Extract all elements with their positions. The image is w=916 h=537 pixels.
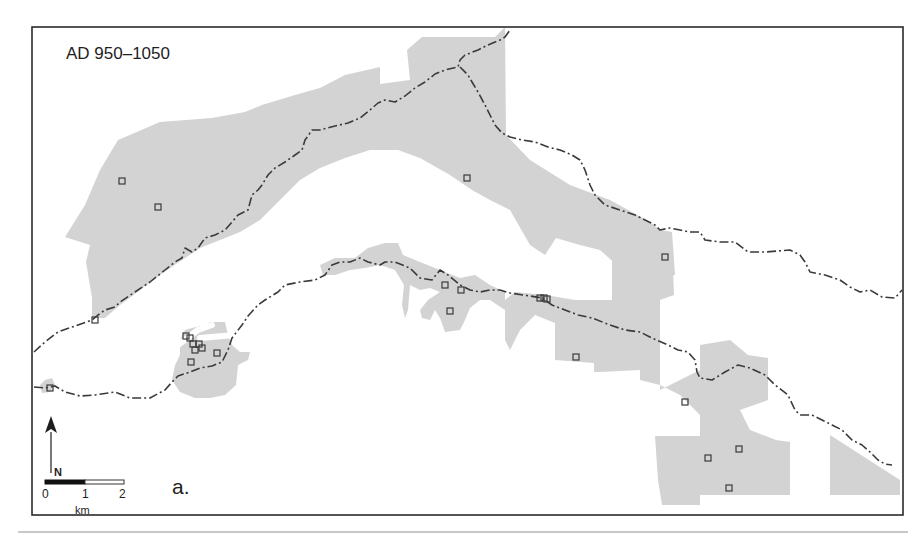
north-label: N — [54, 466, 62, 478]
scale-tick-0: 0 — [42, 487, 49, 501]
map-title: AD 950–1050 — [66, 44, 170, 64]
panel-label: a. — [172, 475, 190, 499]
figure-divider — [18, 531, 908, 533]
scale-unit: km — [75, 504, 90, 516]
scale-tick-1: 1 — [82, 487, 89, 501]
scale-bar — [45, 480, 124, 484]
scale-tick-2: 2 — [119, 487, 126, 501]
land-area — [505, 245, 790, 505]
map-canvas — [0, 0, 916, 537]
north-arrow-icon — [45, 416, 57, 473]
land-area — [65, 27, 675, 318]
land-area-layer — [40, 27, 900, 505]
land-area — [320, 243, 505, 332]
